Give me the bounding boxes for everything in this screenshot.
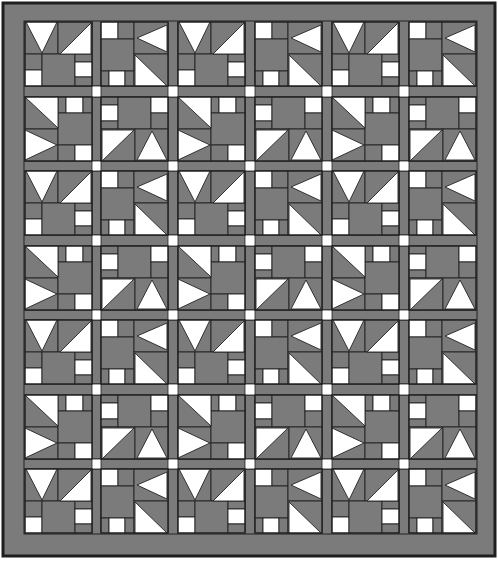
gray-patch [118, 320, 134, 337]
white-square-patch [101, 105, 118, 121]
gray-patch [365, 97, 373, 113]
white-square-patch [25, 368, 42, 384]
gray-patch [349, 352, 382, 384]
gray-patch [426, 22, 442, 39]
gray-patch [101, 419, 118, 427]
gray-patch [118, 97, 151, 129]
gray-patch [211, 411, 245, 443]
cornerstone [245, 235, 255, 246]
gray-patch [151, 411, 168, 427]
gray-patch [75, 203, 92, 211]
quilt-block-arrow-right-block [178, 246, 245, 310]
gray-patch [211, 443, 228, 459]
gray-patch [83, 395, 92, 411]
white-square-patch [151, 246, 168, 262]
gray-patch [101, 246, 118, 254]
gray-patch [118, 395, 151, 427]
gray-patch [365, 145, 382, 161]
quilt-block-arrow-right-block [178, 97, 245, 161]
white-square-patch [255, 254, 272, 270]
white-square-patch [151, 97, 168, 113]
cornerstone [168, 161, 178, 171]
gray-patch [25, 352, 42, 368]
gray-patch [409, 518, 417, 533]
quilt-block-arrow-up-block [255, 97, 322, 161]
gray-patch [211, 395, 219, 411]
white-square-patch [255, 105, 272, 121]
gray-patch [58, 246, 66, 262]
gray-patch [118, 469, 134, 486]
gray-patch [332, 501, 349, 517]
gray-patch [409, 270, 426, 278]
gray-patch [125, 71, 134, 86]
quilt-block-v-triangle-block [332, 469, 399, 533]
gray-patch [365, 294, 382, 310]
gray-patch [178, 203, 195, 219]
white-square-patch [409, 469, 426, 486]
gray-patch [58, 443, 75, 459]
cornerstone [399, 384, 409, 395]
gray-patch [459, 411, 476, 427]
gray-patch [272, 246, 305, 278]
cornerstone [168, 384, 178, 395]
gray-patch [305, 262, 322, 278]
quilt-block-arrow-left-block [101, 22, 168, 86]
white-square-patch [25, 70, 42, 86]
quilt-block-arrow-right-block [178, 395, 245, 459]
white-square-patch [417, 369, 433, 384]
gray-patch [211, 294, 228, 310]
white-square-patch [228, 62, 245, 77]
white-square-patch [373, 395, 390, 411]
white-square-patch [263, 518, 279, 533]
white-square-patch [382, 443, 399, 459]
quilt-block-arrow-up-block [101, 97, 168, 161]
quilt-block-arrow-right-block [332, 97, 399, 161]
quilt-block-v-triangle-block [332, 171, 399, 235]
white-square-patch [382, 145, 399, 161]
quilt-diagram [0, 0, 498, 563]
gray-patch [409, 369, 417, 384]
gray-patch [382, 54, 399, 62]
gray-patch [101, 71, 109, 86]
gray-patch [365, 113, 399, 145]
quilt-block-v-triangle-block [332, 320, 399, 384]
quilt-block-arrow-right-block [25, 246, 92, 310]
gray-patch [228, 501, 245, 509]
gray-patch [279, 518, 288, 533]
white-square-patch [66, 97, 83, 113]
gray-patch [228, 77, 245, 86]
gray-patch [382, 524, 399, 533]
gray-patch [332, 54, 349, 70]
gray-patch [75, 226, 92, 235]
quilt-block-arrow-left-block [409, 171, 476, 235]
gray-patch [58, 395, 66, 411]
gray-patch [75, 375, 92, 384]
gray-patch [279, 369, 288, 384]
gray-patch [211, 262, 245, 294]
white-square-patch [25, 219, 42, 235]
white-square-patch [332, 517, 349, 533]
white-square-patch [219, 246, 236, 262]
gray-patch [236, 246, 245, 262]
white-square-patch [305, 395, 322, 411]
gray-patch [42, 352, 75, 384]
quilt-block-v-triangle-block [178, 171, 245, 235]
white-square-patch [75, 360, 92, 375]
gray-patch [42, 54, 75, 86]
quilt-block-arrow-right-block [332, 395, 399, 459]
cornerstone [92, 161, 101, 171]
quilt-block-arrow-right-block [25, 395, 92, 459]
quilt-block-arrow-up-block [409, 97, 476, 161]
gray-patch [305, 411, 322, 427]
cornerstone [322, 235, 332, 246]
gray-patch [25, 501, 42, 517]
quilt-block-arrow-left-block [101, 469, 168, 533]
white-square-patch [459, 246, 476, 262]
quilt-block-arrow-left-block [255, 469, 322, 533]
white-square-patch [75, 509, 92, 524]
white-square-patch [101, 254, 118, 270]
gray-patch [236, 97, 245, 113]
gray-patch [390, 97, 399, 113]
white-square-patch [75, 145, 92, 161]
gray-patch [42, 501, 75, 533]
